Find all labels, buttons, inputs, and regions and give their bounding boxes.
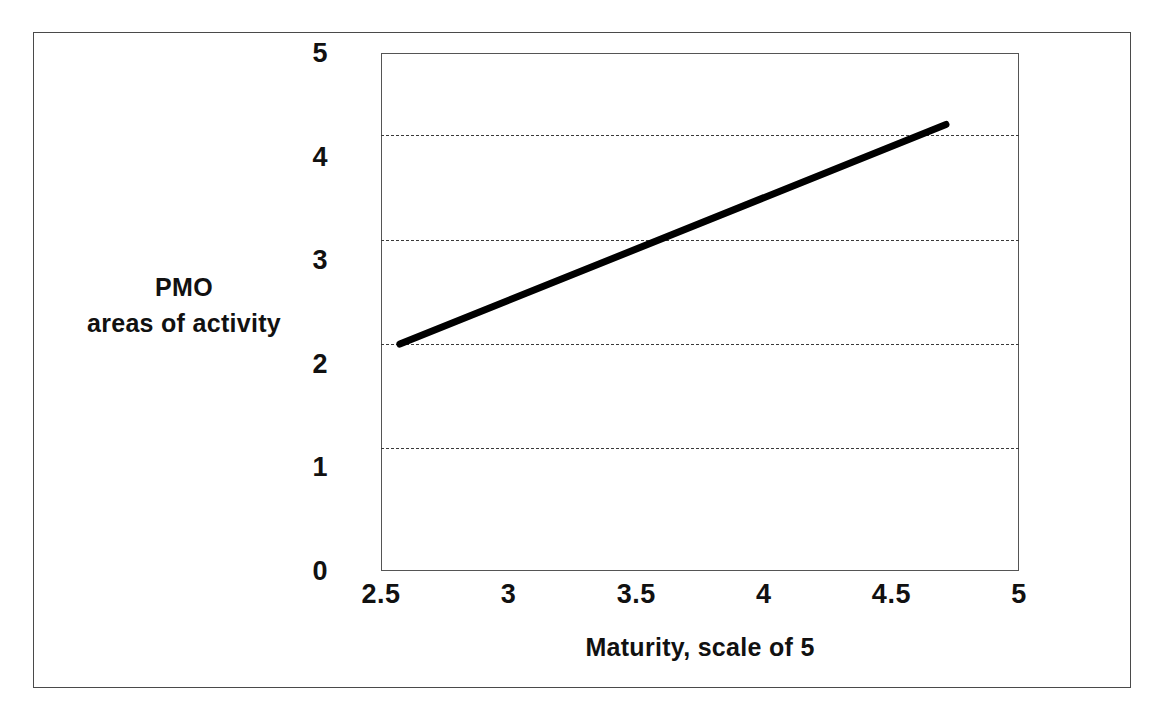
y-tick-label-4: 4 bbox=[268, 144, 328, 171]
y-axis-title: PMO areas of activity bbox=[54, 269, 314, 342]
x-tick-label-5: 5 bbox=[1011, 581, 1027, 608]
x-tick-label-4-5: 4.5 bbox=[872, 581, 911, 608]
line-series-svg bbox=[382, 54, 1020, 572]
y-axis-title-line-1: PMO bbox=[54, 269, 314, 305]
y-axis-title-line-2: areas of activity bbox=[54, 305, 314, 341]
y-tick-label-2: 2 bbox=[268, 351, 328, 378]
y-tick-label-1: 1 bbox=[268, 454, 328, 481]
x-tick-label-2-5: 2.5 bbox=[361, 581, 400, 608]
series-layer bbox=[382, 54, 1018, 570]
plot-area bbox=[381, 53, 1019, 571]
x-axis-title: Maturity, scale of 5 bbox=[381, 633, 1019, 662]
y-axis-tick-labels: 543210 bbox=[268, 33, 328, 687]
chart-canvas: 543210 2.533.544.55 Maturity, scale of 5… bbox=[34, 33, 1130, 687]
x-axis-tick-labels: 2.533.544.55 bbox=[381, 581, 1019, 621]
x-tick-label-3-5: 3.5 bbox=[617, 581, 656, 608]
y-tick-label-5: 5 bbox=[268, 40, 328, 67]
x-tick-label-4: 4 bbox=[756, 581, 772, 608]
y-tick-label-0: 0 bbox=[268, 558, 328, 585]
x-tick-label-3: 3 bbox=[501, 581, 517, 608]
figure-frame: 543210 2.533.544.55 Maturity, scale of 5… bbox=[33, 32, 1131, 688]
data-line-trend bbox=[400, 124, 946, 344]
